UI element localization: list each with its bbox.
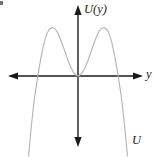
x-axis-right-arrowhead bbox=[133, 72, 143, 79]
y-axis-label: U(y) bbox=[84, 3, 107, 16]
y-axis-top-arrowhead bbox=[74, 5, 81, 15]
y-axis-bottom-arrowhead bbox=[74, 137, 81, 147]
curve-label: U bbox=[132, 134, 141, 147]
plot-canvas bbox=[0, 0, 154, 157]
x-axis-label: y bbox=[146, 68, 152, 81]
potential-plot-figure: U(y) y U bbox=[0, 0, 154, 157]
x-axis-left-arrowhead bbox=[8, 72, 18, 79]
